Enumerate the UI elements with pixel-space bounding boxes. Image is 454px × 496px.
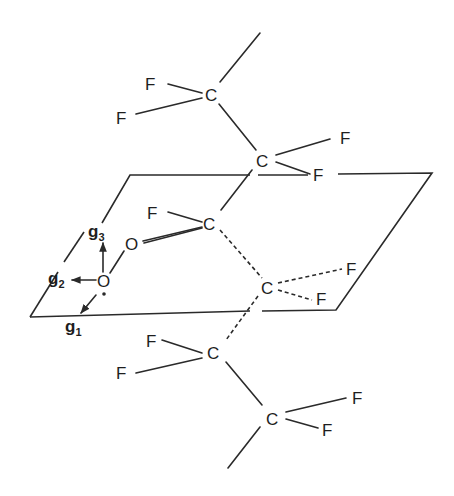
atom-c1: C xyxy=(205,86,217,105)
atom-f4a: F xyxy=(346,260,356,279)
g1-arrow xyxy=(81,295,96,313)
atom-c6: C xyxy=(266,410,278,429)
peroxy-bonds xyxy=(110,227,202,273)
g3-label: g3 xyxy=(88,222,105,243)
atom-f1a: F xyxy=(145,75,155,94)
radical-dot xyxy=(102,292,106,296)
atom-f3a: F xyxy=(147,204,157,223)
atom-o1: O xyxy=(125,235,138,254)
atom-c2: C xyxy=(256,152,268,171)
atom-f6a: F xyxy=(352,389,362,408)
atom-f6b: F xyxy=(322,421,332,440)
atom-labels: C F F C F F C F O O C F F C F F C F F xyxy=(97,75,362,440)
chain-bonds xyxy=(219,33,262,468)
atom-f2a: F xyxy=(340,129,350,148)
atom-c4: C xyxy=(261,279,273,298)
g1-label: g1 xyxy=(65,317,82,338)
atom-c5: C xyxy=(207,344,219,363)
atom-o2: O xyxy=(97,272,110,291)
atom-f5a: F xyxy=(146,332,156,351)
g2-label: g2 xyxy=(48,269,65,290)
atom-f4b: F xyxy=(316,290,326,309)
reference-plane xyxy=(30,173,432,317)
atom-f2b: F xyxy=(313,166,323,185)
peroxy-radical-diagram: C F F C F F C F O O C F F C F F C F F g3… xyxy=(0,0,454,496)
atom-f5b: F xyxy=(116,364,126,383)
atom-c3: C xyxy=(203,215,215,234)
cf-bonds xyxy=(136,84,346,428)
atom-f1b: F xyxy=(116,109,126,128)
